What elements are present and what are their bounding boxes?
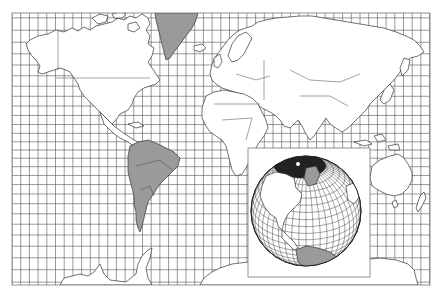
south-america [128,140,180,232]
globe-inset [248,148,370,277]
australia [370,154,412,196]
mercator-map [0,0,440,299]
caribbean-islands [128,122,144,128]
world-map-figure: Mercator projection world map with ortho… [0,0,440,299]
greenland [155,13,198,60]
iceland [194,44,206,52]
tasmania [392,200,398,208]
north-pole [296,162,300,166]
